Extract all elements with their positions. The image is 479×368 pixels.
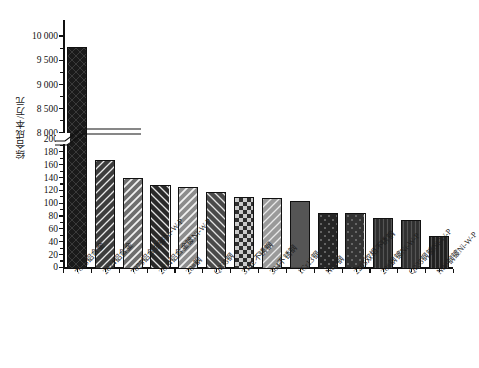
y-tick-label: 100 (44, 198, 58, 208)
axis-break-band (56, 133, 70, 144)
y-axis-title: 综合成本/万元 (16, 96, 32, 159)
y-tick-label: 9 500 (37, 55, 58, 65)
y-tick-label: 80 (49, 211, 59, 221)
y-tick-label: 0 (53, 262, 58, 272)
y-tick-label: 8 000 (37, 128, 58, 138)
y-tick-label: 140 (44, 173, 58, 183)
y-tick-label: 160 (44, 160, 58, 170)
y-tick-label: 40 (49, 237, 59, 247)
y-tick-label: 180 (44, 147, 58, 157)
plot-area: 0204060801001201401601802008 0008 5009 0… (63, 20, 453, 269)
y-tick-label: 120 (44, 185, 58, 195)
y-tick-label: 9 000 (37, 80, 58, 90)
y-tick-label: 60 (49, 224, 59, 234)
bar (67, 47, 87, 269)
y-tick-label: 8 500 (37, 104, 58, 114)
y-tick-label: 20 (49, 250, 59, 260)
y-tick-label: 10 000 (32, 31, 58, 41)
bar-series (63, 20, 453, 269)
x-axis-labels: 7075铝合金2024铝合金7075铝合金镀Ni-W-P2024铝合金镀Ni-W… (63, 270, 466, 368)
bar-fill (68, 48, 86, 268)
